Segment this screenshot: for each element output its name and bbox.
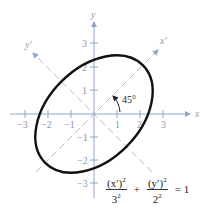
exponent: 2 bbox=[158, 192, 162, 200]
plus-sign: + bbox=[134, 183, 140, 195]
x-tick-label: −1 bbox=[64, 119, 75, 130]
y-tick-label: −1 bbox=[77, 132, 88, 143]
y-axis-label: y bbox=[90, 9, 96, 20]
equals-one: = 1 bbox=[175, 183, 189, 195]
angle-label: 45° bbox=[122, 94, 136, 105]
y-prime-axis bbox=[33, 53, 152, 172]
numerator: (y′) bbox=[148, 177, 163, 189]
exponent: 2 bbox=[122, 176, 126, 184]
x-prime-axis-label: x′ bbox=[159, 35, 167, 46]
y-tick-label: 1 bbox=[82, 85, 87, 96]
y-tick-label: 3 bbox=[82, 38, 87, 49]
y-tick-label: −3 bbox=[77, 178, 88, 189]
exponent: 2 bbox=[163, 176, 167, 184]
x-axis-label: x bbox=[194, 108, 200, 119]
angle-arc bbox=[113, 96, 120, 112]
fraction-y-prime: (y′)2 22 bbox=[147, 174, 168, 204]
fraction-x-prime: (x′)2 32 bbox=[106, 174, 127, 204]
exponent: 2 bbox=[117, 192, 121, 200]
y-tick-label: −2 bbox=[77, 155, 88, 166]
numerator: (x′) bbox=[107, 177, 122, 189]
y-prime-axis-label: y′ bbox=[24, 39, 32, 50]
x-tick-label: −3 bbox=[17, 119, 28, 130]
x-tick-label: 1 bbox=[115, 119, 120, 130]
x-tick-label: 3 bbox=[161, 119, 166, 130]
ellipse-equation: (x′)2 32 + (y′)2 22 = 1 bbox=[103, 174, 193, 204]
x-tick-label: −2 bbox=[41, 119, 52, 130]
